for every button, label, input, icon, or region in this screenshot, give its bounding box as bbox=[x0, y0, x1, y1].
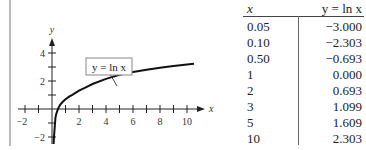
header-divider bbox=[243, 16, 364, 17]
cell-y: 0.000 bbox=[333, 67, 362, 83]
table-row: 2 0.693 bbox=[243, 83, 366, 99]
table-row: 1 0.000 bbox=[243, 67, 366, 83]
cell-y: 2.303 bbox=[333, 131, 362, 147]
x-axis-arrow-icon bbox=[197, 106, 205, 112]
cell-x: 0.10 bbox=[247, 35, 270, 51]
table-row: 3 1.099 bbox=[243, 99, 366, 115]
x-tick-label: 6 bbox=[131, 116, 136, 127]
table-row: 0.05 −3.000 bbox=[243, 19, 366, 35]
x-axis-label: x bbox=[208, 103, 214, 114]
cell-y: −3.000 bbox=[325, 19, 362, 35]
cell-y: 1.609 bbox=[333, 115, 362, 131]
cell-y: −0.693 bbox=[325, 51, 362, 67]
table-row: 0.50 −0.693 bbox=[243, 51, 366, 67]
y-axis-label: y bbox=[49, 24, 55, 35]
cell-x: 3 bbox=[247, 99, 254, 115]
cell-y: 0.693 bbox=[333, 83, 362, 99]
x-axis: −2 2 4 6 8 10 x bbox=[17, 103, 214, 127]
cell-x: 1 bbox=[247, 67, 254, 83]
x-tick-label: 10 bbox=[182, 116, 192, 127]
cell-x: 0.05 bbox=[247, 19, 270, 35]
y-axis-arrow-icon bbox=[49, 38, 55, 46]
y-tick-label: 2 bbox=[40, 76, 45, 87]
ln-graph: −2 2 4 6 8 10 x 4 2 −2 y y = ln x bbox=[0, 0, 240, 150]
table-row: 5 1.609 bbox=[243, 115, 366, 131]
cell-y: −2.303 bbox=[325, 35, 362, 51]
cell-x: 2 bbox=[247, 83, 254, 99]
x-tick-label: −2 bbox=[17, 116, 28, 127]
header-y: y = ln x bbox=[322, 1, 362, 17]
cell-x: 10 bbox=[247, 131, 260, 147]
header-x: x bbox=[247, 1, 253, 17]
table-header-row: x y = ln x bbox=[243, 1, 366, 17]
y-axis: 4 2 −2 y bbox=[34, 24, 56, 144]
annotation-label: y = ln x bbox=[92, 61, 127, 73]
cell-x: 0.50 bbox=[247, 51, 270, 67]
y-tick-label: 4 bbox=[40, 48, 45, 59]
table-row: 0.10 −2.303 bbox=[243, 35, 366, 51]
ln-curve bbox=[54, 64, 194, 144]
table-row: 10 2.303 bbox=[243, 131, 366, 147]
cell-x: 5 bbox=[247, 115, 254, 131]
y-tick-label: −2 bbox=[34, 132, 45, 143]
x-tick-label: 2 bbox=[77, 116, 82, 127]
cell-y: 1.099 bbox=[333, 99, 362, 115]
x-tick-label: 8 bbox=[158, 116, 163, 127]
x-tick-label: 4 bbox=[104, 116, 109, 127]
